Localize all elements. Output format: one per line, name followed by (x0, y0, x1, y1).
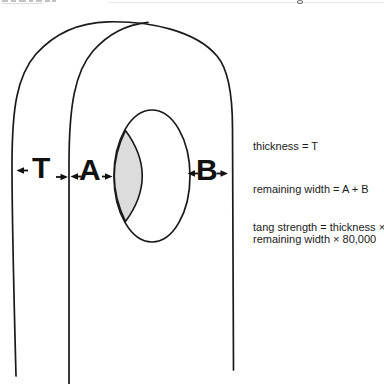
t-right-arrow-icon (56, 174, 68, 180)
tang-strength-formula-line2: remaining width × 80,000 (253, 233, 384, 245)
a-right-arrow-icon (102, 173, 113, 179)
label-thickness: T (32, 153, 50, 183)
thickness-formula: thickness = T (253, 140, 318, 152)
tang-strength-formula: tang strength = thickness × remaining wi… (253, 221, 384, 246)
t-left-arrow-icon (17, 167, 29, 173)
tang-strength-diagram: T A B thickness = T remaining width = A … (0, 0, 384, 384)
label-width-a: A (79, 155, 101, 185)
tang-strength-formula-line1: tang strength = thickness × (253, 221, 384, 233)
remaining-width-formula: remaining width = A + B (253, 183, 369, 195)
label-width-b: B (196, 155, 218, 185)
b-right-arrow-icon (217, 170, 229, 176)
